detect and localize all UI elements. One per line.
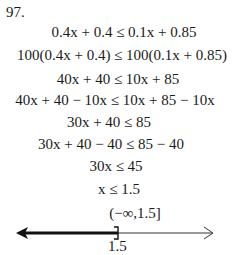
endpoint-label: 1.5 — [108, 238, 127, 255]
step-3: 40x + 40 ≤ 10x + 85 — [0, 70, 242, 88]
problem-number: 97. — [6, 4, 25, 21]
step-8: x ≤ 1.5 — [0, 180, 243, 198]
step-4: 40x + 40 − 10x ≤ 10x + 85 − 10x — [0, 91, 239, 109]
step-1: 0.4x + 0.4 ≤ 0.1x + 0.85 — [0, 23, 248, 41]
step-6: 30x + 40 − 40 ≤ 85 − 40 — [0, 135, 235, 153]
step-5: 30x + 40 ≤ 85 — [0, 113, 233, 131]
step-2: 100(0.4x + 0.4) ≤ 100(0.1x + 0.85) — [0, 46, 246, 64]
interval-notation: (−∞,1.5] — [0, 204, 248, 222]
step-7: 30x ≤ 45 — [0, 157, 240, 175]
